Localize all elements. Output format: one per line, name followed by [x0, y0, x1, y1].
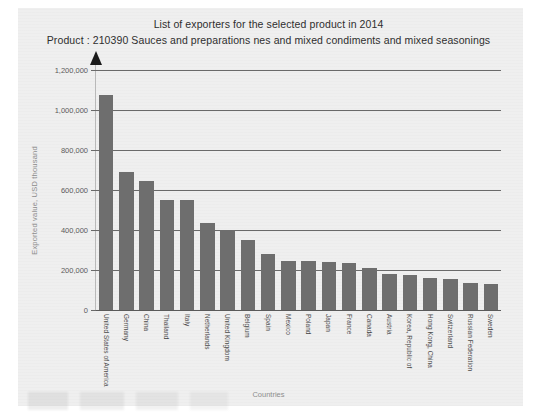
y-axis-tick-label: 200,000 [61, 266, 88, 275]
bar [261, 254, 276, 310]
bar-series [96, 70, 501, 310]
bar [99, 95, 114, 310]
x-axis-tick-labels: United States of AmericaGermanyChinaThai… [96, 314, 501, 386]
x-axis-tick-label: Thailand [163, 314, 170, 339]
x-axis-tick-label: Netherlands [204, 314, 211, 350]
x-axis-tick-label: Japan [325, 314, 332, 332]
x-axis-tick-label: United States of America [103, 314, 110, 387]
y-axis-tick-label: 800,000 [61, 146, 88, 155]
bar [160, 200, 175, 310]
x-axis-tick-label: Spain [265, 314, 272, 331]
x-axis-tick-label: Belgium [244, 314, 251, 338]
x-axis-tick-label: Mexico [285, 314, 292, 335]
bar [241, 240, 256, 310]
y-axis-tick-label: 1,000,000 [55, 106, 88, 115]
bar [484, 284, 499, 310]
bar [200, 223, 215, 310]
x-axis-tick-label: Korea, Republic of [406, 314, 413, 368]
bar [362, 268, 377, 310]
x-axis-tick-label: Switzerland [447, 314, 454, 348]
y-axis-tick-label: 0 [84, 306, 88, 315]
y-axis-tick-label: 400,000 [61, 226, 88, 235]
x-axis-tick-label: United Kingdom [224, 314, 231, 361]
y-axis-title: Exported value, USD thousand [30, 121, 39, 281]
x-axis-tick-label: Austria [386, 314, 393, 335]
x-axis-tick-label: Russian Federation [467, 314, 474, 371]
x-axis-tick-label: China [143, 314, 150, 331]
y-axis-tick-label: 1,200,000 [55, 66, 88, 75]
x-axis-tick-label: Poland [305, 314, 312, 335]
bar [119, 172, 134, 310]
x-axis-tick-label: France [346, 314, 353, 335]
x-axis-tick-label: Hong Kong, China [427, 314, 434, 368]
bar [180, 200, 195, 310]
bar [281, 261, 296, 310]
y-axis-tick-label: 600,000 [61, 186, 88, 195]
bar [220, 230, 235, 310]
bar [139, 181, 154, 310]
chart-subtitle: Product : 210390 Sauces and preparations… [0, 34, 537, 46]
x-axis-line [96, 310, 501, 311]
plot-area: 0200,000400,000600,000800,0001,000,0001,… [96, 70, 501, 310]
page-title: List of exporters for the selected produ… [0, 18, 537, 30]
y-axis-arrow-icon [90, 51, 102, 65]
x-axis-tick-label: Italy [184, 314, 191, 326]
bar [403, 275, 418, 310]
chart-screenshot: List of exporters for the selected produ… [0, 0, 537, 420]
bar [443, 279, 458, 310]
bar [342, 263, 357, 310]
bar [322, 262, 337, 310]
x-axis-tick-label: Germany [123, 314, 130, 341]
scan-artifact [28, 392, 278, 410]
bar [423, 278, 438, 310]
x-axis-tick-label: Canada [366, 314, 373, 337]
chart-title-block: List of exporters for the selected produ… [0, 18, 537, 46]
bar [382, 274, 397, 310]
bar [463, 283, 478, 310]
bar [301, 261, 316, 310]
x-axis-tick-label: Sweden [487, 314, 494, 338]
